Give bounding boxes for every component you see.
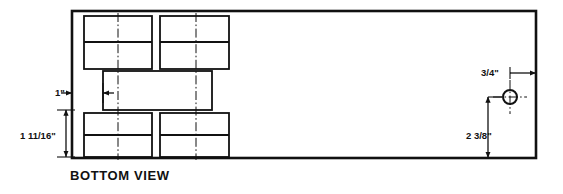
dimension-label-one-and-eleven-sixteenths: 1 11/16" — [20, 130, 56, 141]
dimension-label-two-and-three-eighths: 2 3/8" — [466, 130, 492, 141]
bottom-view-drawing: 1" 1 11/16" 3/4" 2 3/8" BOTTOM VIEW — [0, 0, 563, 194]
drawing-canvas: 1" 1 11/16" 3/4" 2 3/8" — [0, 0, 563, 194]
dimension-label-one-inch: 1" — [55, 87, 65, 98]
view-caption: BOTTOM VIEW — [70, 168, 170, 183]
dimension-label-three-quarters: 3/4" — [481, 67, 499, 78]
